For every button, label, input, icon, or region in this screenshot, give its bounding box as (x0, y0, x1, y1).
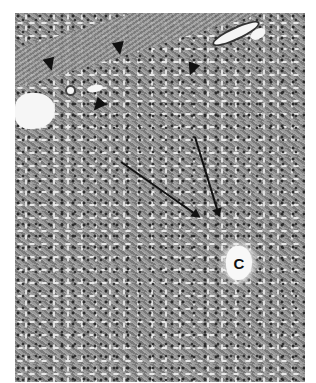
liver-micrograph: C (15, 13, 305, 382)
vessel-lumen (15, 93, 55, 129)
vessel-lumen (65, 85, 76, 96)
arrowhead-marker (112, 41, 126, 56)
arrow-marker (120, 161, 199, 217)
arrowhead-marker (89, 97, 107, 115)
portal-tract (15, 13, 305, 90)
arrow-marker (194, 137, 220, 216)
central-vein: C (226, 246, 252, 280)
vessel-lumen (87, 84, 104, 94)
central-vein-label: C (234, 256, 245, 271)
arrowhead-marker (184, 61, 200, 77)
